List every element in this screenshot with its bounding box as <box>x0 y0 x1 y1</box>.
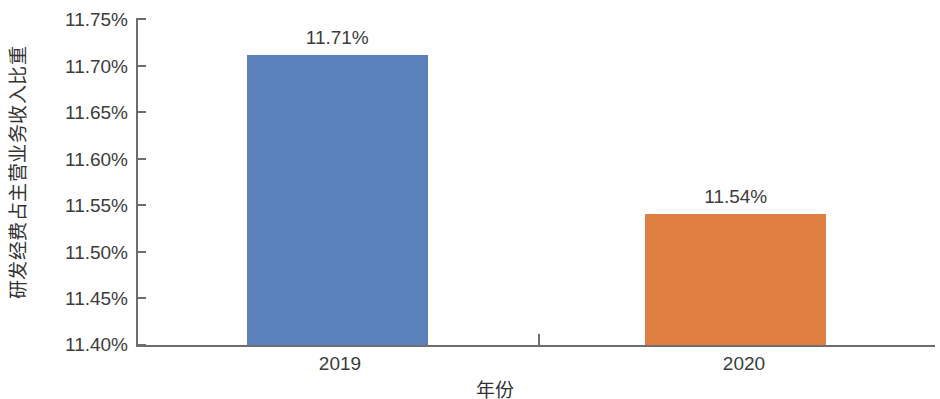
bar-2020 <box>645 214 826 345</box>
x-axis-tick <box>538 334 540 345</box>
bar-value-label: 11.54% <box>704 186 767 208</box>
y-axis-tick <box>138 65 146 67</box>
y-axis-tick <box>138 251 146 253</box>
y-tick-label: 11.40% <box>24 334 128 356</box>
y-axis-tick <box>138 111 146 113</box>
y-tick-label: 11.60% <box>24 149 128 171</box>
x-category-label-2019: 2019 <box>319 353 361 375</box>
y-axis-tick <box>138 344 146 346</box>
y-tick-label: 11.55% <box>24 195 128 217</box>
x-category-label-2020: 2020 <box>723 353 765 375</box>
y-axis-tick <box>138 204 146 206</box>
bar-value-label: 11.71% <box>306 27 369 49</box>
x-axis-title: 年份 <box>0 375 940 399</box>
y-axis-tick-labels: 11.75% 11.70% 11.65% 11.60% 11.55% 11.50… <box>24 0 128 399</box>
bar-chart: 研发经费占主营业务收入比重 11.75% 11.70% 11.65% 11.60… <box>0 0 940 399</box>
y-axis-tick <box>138 18 146 20</box>
y-axis-tick <box>138 297 146 299</box>
x-axis-line <box>136 345 935 347</box>
y-tick-label: 11.65% <box>24 102 128 124</box>
y-tick-label: 11.70% <box>24 56 128 78</box>
y-tick-label: 11.50% <box>24 242 128 264</box>
y-axis-tick <box>138 158 146 160</box>
y-tick-label: 11.45% <box>24 288 128 310</box>
y-tick-label: 11.75% <box>24 9 128 31</box>
bar-2019 <box>247 55 428 345</box>
x-axis-title-text: 年份 <box>476 375 514 399</box>
